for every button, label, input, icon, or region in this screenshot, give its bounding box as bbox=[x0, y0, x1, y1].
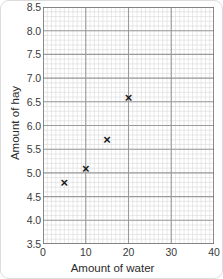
plot-area: ×××× bbox=[43, 7, 214, 244]
data-point-marker: × bbox=[80, 163, 91, 174]
x-axis-tick-labels: 010203040 bbox=[1, 247, 223, 261]
data-point-marker: × bbox=[102, 134, 113, 145]
data-point-marker: × bbox=[123, 92, 134, 103]
x-tick-label: 20 bbox=[114, 247, 144, 258]
x-tick-label: 0 bbox=[28, 247, 58, 258]
y-axis-title-wrapper: Amount of hay bbox=[7, 5, 23, 242]
grid-lines bbox=[43, 7, 214, 244]
x-axis-title: Amount of water bbox=[1, 262, 223, 274]
x-tick-label: 10 bbox=[71, 247, 101, 258]
data-point-marker: × bbox=[59, 177, 70, 188]
y-axis-title: Amount of hay bbox=[9, 86, 21, 160]
scatter-plot-figure: ×××× 8.58.07.57.06.56.05.55.04.54.03.5 0… bbox=[1, 1, 223, 279]
x-tick-label: 40 bbox=[199, 247, 223, 258]
chart-card: ×××× 8.58.07.57.06.56.05.55.04.54.03.5 0… bbox=[0, 0, 223, 279]
x-tick-label: 30 bbox=[156, 247, 186, 258]
